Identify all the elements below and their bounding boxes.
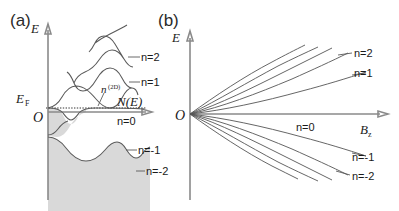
figure-container: (a) E E F O n (2D) N(E) n=2 n=1 n=0 n=-1… [0, 0, 399, 211]
energy-axis-label-b: E [171, 30, 180, 45]
fan-curve-upper-3 [190, 48, 332, 114]
fan-curve-n1 [190, 72, 366, 114]
level-label-b-n1: n=1 [354, 67, 373, 79]
energy-axis-label-a: E [30, 21, 39, 36]
field-axis-label-b: B [360, 122, 368, 137]
fan-curve-lower-5 [190, 114, 298, 179]
origin-label-b: O [175, 108, 185, 123]
panel-label-a: (a) [10, 11, 31, 30]
level-label-b-n0: n=0 [296, 121, 315, 133]
level-label-a-n2: n=2 [141, 51, 160, 63]
level-label-b-n-minus-2: n=-2 [352, 170, 374, 182]
dos-axis-label-a: N(E) [116, 94, 142, 109]
level-label-a-n0: n=0 [117, 115, 136, 127]
figure-canvas: (a) E E F O n (2D) N(E) n=2 n=1 n=0 n=-1… [0, 0, 399, 211]
level-label-b-n2: n=2 [354, 47, 373, 59]
fermi-level-label: E [15, 91, 24, 106]
origin-label-a: O [33, 110, 43, 125]
panel-label-b: (b) [158, 11, 179, 30]
panel-a: (a) E E F O n (2D) N(E) n=2 n=1 n=0 n=-1… [10, 11, 168, 211]
level-label-a-n-minus-1: n=-1 [138, 144, 160, 156]
field-axis-subscript-b: z [368, 130, 372, 139]
fan-curve-upper-5 [190, 45, 305, 114]
fan-curve-n-minus-1 [190, 114, 366, 156]
reference-curve-superscript: (2D) [108, 83, 120, 91]
fan-curve-upper-4 [190, 47, 318, 114]
level-label-a-n1: n=1 [141, 76, 160, 88]
reference-curve-label: n [101, 83, 107, 95]
level-label-a-n-minus-2: n=-2 [146, 165, 168, 177]
panel-b: (b) E O B z n=2 n=1 n=0 n=-1 n=-2 [158, 11, 388, 200]
leader-b-n-minus-2 [336, 171, 350, 175]
fermi-level-subscript: F [25, 99, 30, 108]
level-label-b-n-minus-1: n=-1 [352, 151, 374, 163]
